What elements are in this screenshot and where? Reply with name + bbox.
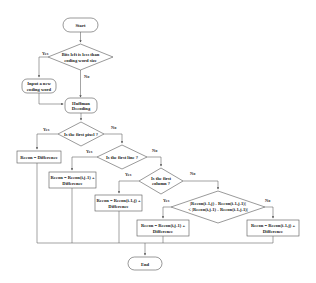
end-label: End: [141, 262, 150, 267]
yes-label-bits: Yes: [42, 51, 49, 56]
end-terminal: End: [128, 257, 162, 270]
yes-label-line: Yes: [86, 149, 93, 154]
first-line-label: Is the first line ?: [106, 155, 139, 160]
recon-line-line1: Recon = Recon(i,j-1) +: [50, 175, 94, 180]
first-column-line1: Is the first: [151, 176, 172, 181]
huffman-decoding: Huffman Decoding: [65, 98, 97, 113]
decision-first-pixel: Is the first pixel ?: [58, 122, 104, 146]
start-terminal: Start: [63, 18, 98, 32]
decision-bits-line2: coding word size: [64, 58, 97, 63]
input-line2: coding word: [27, 87, 52, 92]
no-label-column: No: [190, 171, 196, 176]
yes-label-compare: Yes: [163, 198, 170, 203]
recon-left-box: Recon = Recon(i,j-1) + Difference: [137, 220, 189, 236]
flowchart: Start Bits left is less than coding word…: [0, 0, 316, 283]
no-label-pixel: No: [111, 125, 117, 130]
recon-first-column-box: Recon = Recon(i-1,j) + Difference: [95, 195, 142, 211]
recon-column-line2: Difference: [108, 204, 128, 209]
recon-difference: Recon = Difference: [17, 151, 61, 163]
recon-first-line-box: Recon = Recon(i,j-1) + Difference: [49, 172, 96, 188]
no-label-bits: No: [84, 74, 90, 79]
recon-left-line2: Difference: [153, 229, 173, 234]
decision-bits-left: Bits left is less than coding word size: [48, 44, 113, 70]
decision-compare: |Recon(i-1,j) - Recon(i-1,j-1)| < |Recon…: [171, 191, 265, 223]
compare-line1: |Recon(i-1,j) - Recon(i-1,j-1)|: [190, 201, 246, 206]
recon-line-line2: Difference: [62, 181, 82, 186]
recon-up-line2: Difference: [263, 229, 283, 234]
input-line1: Input a new: [27, 81, 51, 86]
decision-first-column: Is the first column ?: [139, 168, 183, 194]
input-new-word: Input a new coding word: [22, 79, 56, 93]
yes-label-pixel: Yes: [43, 127, 50, 132]
huffman-line2: Decoding: [72, 106, 91, 111]
decision-first-line: Is the first line ?: [97, 145, 147, 169]
no-label-compare: No: [265, 198, 271, 203]
huffman-line1: Huffman: [72, 101, 90, 106]
yes-label-column: Yes: [125, 172, 132, 177]
recon-first-label: Recon = Difference: [20, 155, 57, 160]
recon-up-box: Recon = Recon(i-1,j) + Difference: [247, 220, 299, 236]
no-label-line: No: [152, 148, 158, 153]
compare-line2: < |Recon(i,j-1) - Recon(i-1,j-1)|: [188, 207, 248, 212]
start-label: Start: [76, 23, 86, 28]
first-pixel-label: Is the first pixel ?: [64, 132, 99, 137]
recon-up-line1: Recon = Recon(i-1,j) +: [251, 223, 295, 228]
recon-left-line1: Recon = Recon(i,j-1) +: [141, 223, 185, 228]
recon-column-line1: Recon = Recon(i-1,j) +: [96, 198, 140, 203]
decision-bits-line1: Bits left is less than: [62, 52, 100, 57]
first-column-line2: column ?: [152, 181, 171, 186]
